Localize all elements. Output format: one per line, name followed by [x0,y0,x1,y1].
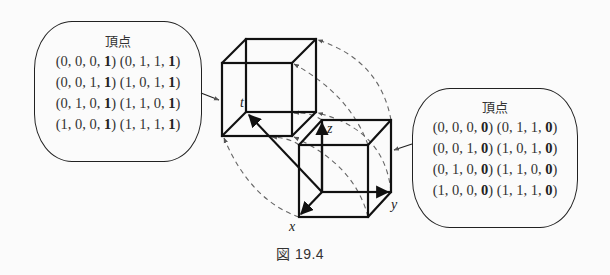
figure-caption: 図 19.4 [276,243,324,263]
bubble-title: 頂点 [35,31,201,50]
t-axis [249,115,322,192]
vertices-bubble-t0: 頂点 (0, 0, 0, 0) (0, 1, 1, 0) (0, 0, 1, 0… [412,88,578,228]
vertex-row: (0, 0, 1, 0) (1, 0, 1, 0) [413,138,577,159]
left-bubble-pointer [201,93,219,100]
y-axis-label: y [389,197,398,212]
vertex-row: (1, 0, 0, 1) (1, 1, 1, 1) [35,114,201,135]
bubble-title: 頂点 [413,97,577,116]
t-axis-label: t [240,95,245,110]
figure-19-4: t z y x 頂点 (0, 0, 0, 1) (0, 1, 1, 1) (0,… [0,0,610,275]
vertex-row: (1, 0, 0, 0) (1, 1, 1, 0) [413,180,577,201]
vertex-row: (0, 0, 0, 1) (0, 1, 1, 1) [35,51,201,72]
z-axis-label: z [326,121,333,136]
vertices-bubble-t1: 頂点 (0, 0, 0, 1) (0, 1, 1, 1) (0, 0, 1, 1… [34,21,202,162]
vertex-row: (0, 0, 0, 0) (0, 1, 1, 0) [413,117,577,138]
vertex-row: (0, 0, 1, 1) (1, 0, 1, 1) [35,72,201,93]
x-axis [301,192,322,214]
vertex-row: (0, 1, 0, 0) (1, 1, 0, 0) [413,159,577,180]
dashed-correspondence-curves [224,40,391,217]
x-axis-label: x [288,219,296,234]
vertex-row: (0, 1, 0, 1) (1, 1, 0, 1) [35,93,201,114]
right-bubble-pointer [394,144,412,150]
upper-cube [222,39,316,136]
